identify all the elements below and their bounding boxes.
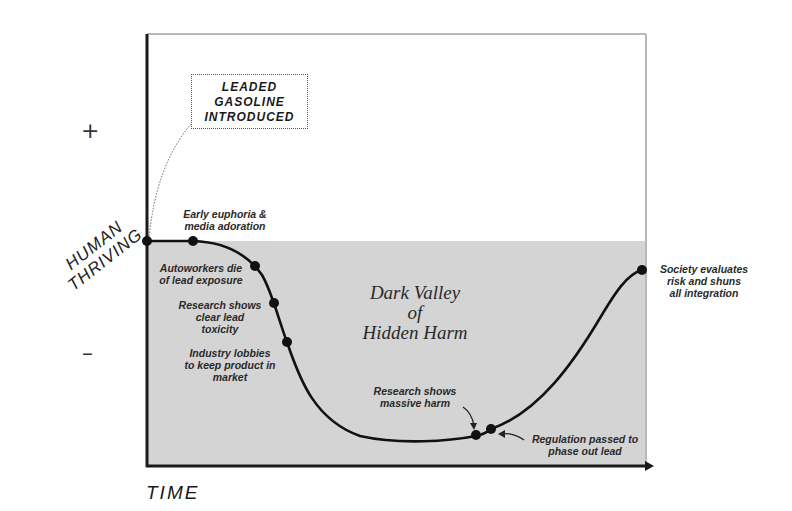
label-line: phase out lead xyxy=(523,445,647,457)
valley-title-line-1: Dark Valley xyxy=(340,283,490,303)
valley-title-line-2: of xyxy=(340,303,490,323)
label-line: Autoworkers die xyxy=(150,262,252,274)
label-line: Regulation passed to xyxy=(523,433,647,445)
label-line: Research shows xyxy=(365,385,465,397)
label-industry-lobbies: Industry lobbies to keep product in mark… xyxy=(175,347,285,383)
label-line: market xyxy=(175,371,285,383)
intro-label-box: LEADED GASOLINE INTRODUCED xyxy=(191,74,308,129)
intro-line-3: INTRODUCED xyxy=(192,110,307,125)
event-point-society xyxy=(637,265,647,275)
label-line: Society evaluates xyxy=(651,263,757,275)
label-euphoria: Early euphoria & media adoration xyxy=(170,208,280,232)
event-point-research-harm xyxy=(471,430,481,440)
x-axis-arrowhead-icon xyxy=(645,461,654,471)
event-point-euphoria xyxy=(188,236,198,246)
valley-title: Dark Valley of Hidden Harm xyxy=(340,283,490,343)
label-research-toxicity: Research shows clear lead toxicity xyxy=(170,299,270,335)
x-axis-title: TIME xyxy=(146,482,199,504)
label-line: toxicity xyxy=(170,323,270,335)
label-line: to keep product in xyxy=(175,359,285,371)
label-line: risk and shuns xyxy=(651,275,757,287)
label-research-harm: Research shows massive harm xyxy=(365,385,465,409)
valley-title-line-3: Hidden Harm xyxy=(340,323,490,343)
label-regulation: Regulation passed to phase out lead xyxy=(523,433,647,457)
label-line: media adoration xyxy=(170,220,280,232)
event-point-research-toxicity xyxy=(269,298,279,308)
label-line: all integration xyxy=(651,287,757,299)
label-line: clear lead xyxy=(170,311,270,323)
label-line: massive harm xyxy=(365,397,465,409)
label-line: Research shows xyxy=(170,299,270,311)
label-line: Industry lobbies xyxy=(175,347,285,359)
label-line: Early euphoria & xyxy=(170,208,280,220)
label-line: of lead exposure xyxy=(150,274,252,286)
label-autoworkers: Autoworkers die of lead exposure xyxy=(150,262,252,286)
event-point-industry-lobbies xyxy=(282,337,292,347)
y-axis-minus: – xyxy=(82,340,93,365)
intro-line-2: GASOLINE xyxy=(192,95,307,110)
y-axis-plus: + xyxy=(81,118,99,143)
event-point-regulation xyxy=(486,424,496,434)
diagram-stage: + – HUMAN THRIVING TIME LEADED GASOLINE … xyxy=(0,0,792,511)
intro-line-1: LEADED xyxy=(192,80,307,95)
label-society: Society evaluates risk and shuns all int… xyxy=(651,263,757,299)
